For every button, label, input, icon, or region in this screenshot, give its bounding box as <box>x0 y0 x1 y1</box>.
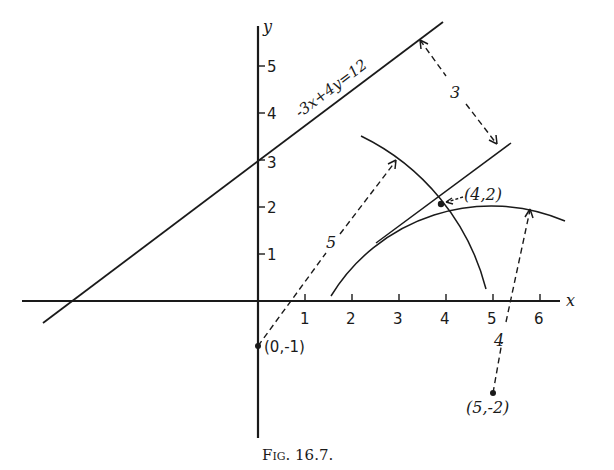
x-tick-label: 4 <box>440 310 450 328</box>
point-4-2 <box>438 201 444 207</box>
x-tick-label: 5 <box>487 310 497 328</box>
x-tick-label: 2 <box>346 310 356 328</box>
y-tick-label: 2 <box>267 199 277 217</box>
point-0-neg1 <box>255 343 261 349</box>
figure-caption: Fig. 16.7. <box>262 446 333 464</box>
distance-3-indicator: 3 <box>420 40 497 144</box>
distance-3-label: 3 <box>450 83 460 102</box>
point-5-neg2-label: (5,-2) <box>466 398 509 417</box>
y-ticks: 1 2 3 4 5 <box>258 58 277 264</box>
point-0-neg1-label: (0,-1) <box>264 338 305 356</box>
x-axis-label: x <box>566 291 575 310</box>
line-minus3x-plus4y-eq-12 <box>43 22 443 323</box>
diagram-figure: x y 1 2 3 4 5 6 1 2 3 4 5 -3x+4y=12 <box>0 0 614 470</box>
y-tick-label: 3 <box>267 154 277 172</box>
x-tick-label: 6 <box>534 310 544 328</box>
y-tick-label: 5 <box>267 58 277 76</box>
x-ticks: 1 2 3 4 5 6 <box>300 294 544 328</box>
y-tick-label: 1 <box>267 246 277 264</box>
y-axis-label: y <box>262 17 273 36</box>
x-tick-label: 3 <box>393 310 403 328</box>
point-4-2-label: (4,2) <box>464 185 502 204</box>
x-tick-label: 1 <box>300 310 310 328</box>
line-equation-label: -3x+4y=12 <box>292 56 371 122</box>
circle-arc-center-0-neg1-radius-5 <box>361 136 486 289</box>
radius-4-label: 4 <box>493 331 504 350</box>
radius-5-indicator: 5 <box>258 160 396 346</box>
point-5-neg2 <box>490 390 496 396</box>
radius-5-label: 5 <box>326 233 336 252</box>
circle-arc-center-5-neg2-radius-4 <box>331 206 565 296</box>
y-tick-label: 4 <box>267 105 277 123</box>
